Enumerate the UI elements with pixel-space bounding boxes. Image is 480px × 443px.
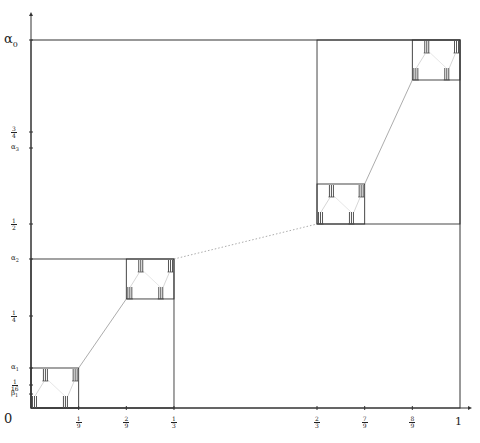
bar-cluster — [328, 185, 334, 197]
y-tick-label-β1: β1 — [11, 390, 18, 398]
bar-cluster — [444, 68, 450, 80]
x-end-label: 1 — [455, 416, 462, 427]
y-arrow-icon — [29, 12, 33, 16]
bar-cluster — [72, 369, 78, 381]
bar-cluster — [138, 260, 144, 272]
bar-cluster — [158, 287, 164, 299]
y-tick-label-1-2: 12 — [11, 218, 17, 231]
cantor-function-figure — [0, 0, 480, 443]
bar-cluster — [318, 212, 324, 224]
bar-cluster — [62, 396, 68, 408]
y-tick-label-α0: α0 — [4, 32, 18, 49]
y-tick-label-α1: α1 — [11, 364, 19, 372]
y-tick-label-3-4: 34 — [11, 126, 17, 139]
x-arrow-icon — [468, 406, 472, 410]
bar-cluster — [413, 68, 419, 80]
bar-cluster — [42, 369, 48, 381]
bar-clusters — [32, 41, 460, 408]
x-tick-label-8-9: 89 — [405, 416, 419, 429]
bar-cluster — [454, 41, 460, 53]
bar-cluster — [167, 260, 173, 272]
bar-cluster — [348, 212, 354, 224]
nested-boxes — [31, 40, 460, 408]
connector-line — [365, 80, 413, 184]
x-tick-label-2-9: 29 — [119, 416, 133, 429]
y-tick-label-α2: α2 — [11, 255, 19, 263]
x-origin-label: 0 — [4, 412, 12, 425]
bar-cluster — [424, 41, 430, 53]
connector-line — [79, 299, 127, 368]
x-tick-label-1-3: 13 — [167, 416, 181, 429]
axes — [29, 12, 472, 410]
connector-line — [174, 224, 317, 259]
x-tick-label-7-9: 79 — [358, 416, 372, 429]
bar-cluster — [127, 287, 133, 299]
bar-cluster — [358, 185, 364, 197]
y-tick-label-1-4: 14 — [11, 310, 17, 323]
x-tick-label-2-3: 23 — [310, 416, 324, 429]
y-tick-label-α3: α3 — [11, 144, 19, 152]
bar-cluster — [32, 396, 38, 408]
x-tick-label-1-9: 19 — [72, 416, 86, 429]
